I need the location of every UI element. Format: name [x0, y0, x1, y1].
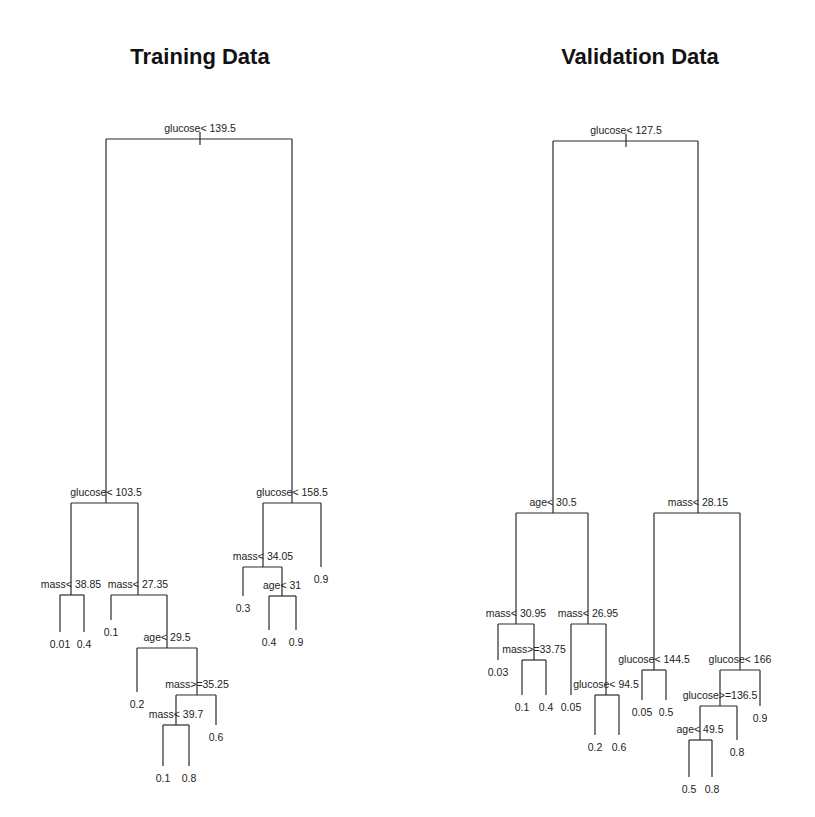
leaf-value: 0.01 — [50, 638, 71, 650]
leaf-value: 0.9 — [753, 712, 768, 724]
split-label: glucose< 166 — [709, 653, 772, 665]
leaf-value: 0.4 — [77, 638, 92, 650]
split-node-glucose-lt-127-5: glucose< 127.5 — [553, 124, 698, 513]
split-label: age< 31 — [263, 579, 301, 591]
split-label: glucose< 158.5 — [256, 486, 328, 498]
tree-figure: Training Data Validation Data glucose< 1… — [0, 0, 815, 817]
leaf-value: 0.5 — [682, 783, 697, 795]
split-label: mass>=33.75 — [502, 643, 566, 655]
split-node-mass-lt-28-15: mass< 28.15 — [654, 496, 740, 670]
split-node-age-lt-30-5: age< 30.5 — [516, 496, 588, 624]
split-label: mass< 26.95 — [558, 607, 619, 619]
split-label: mass>=35.25 — [165, 678, 229, 690]
split-label: mass< 38.85 — [41, 578, 102, 590]
leaf-value: 0.1 — [515, 701, 530, 713]
split-label: glucose< 94.5 — [573, 678, 639, 690]
leaf-value: 0.03 — [488, 666, 509, 678]
split-label: glucose< 103.5 — [70, 486, 142, 498]
split-label: glucose< 127.5 — [590, 124, 662, 136]
split-node-glucose-lt-144-5: glucose< 144.5 — [618, 653, 690, 700]
leaf-value: 0.1 — [104, 626, 119, 638]
leaf-value: 0.9 — [314, 573, 329, 585]
split-label: age< 30.5 — [529, 496, 576, 508]
split-label: mass< 34.05 — [233, 550, 294, 562]
training-tree: glucose< 139.5glucose< 103.5mass< 38.850… — [41, 122, 329, 784]
split-node-mass-lt-39-7: mass< 39.7 — [149, 708, 204, 766]
split-label: glucose< 139.5 — [164, 122, 236, 134]
leaf-value: 0.8 — [705, 783, 720, 795]
split-label: mass< 30.95 — [486, 607, 547, 619]
split-label: age< 29.5 — [143, 631, 190, 643]
leaf-value: 0.2 — [588, 741, 603, 753]
training-title: Training Data — [130, 44, 270, 69]
split-node-glucose-lt-94-5: glucose< 94.5 — [573, 678, 639, 735]
split-label: mass< 27.35 — [108, 578, 169, 590]
leaf-value: 0.9 — [289, 636, 304, 648]
leaf-value: 0.3 — [236, 602, 251, 614]
split-node-mass-ge-33-75: mass>=33.75 — [502, 643, 566, 695]
leaf-value: 0.05 — [561, 701, 582, 713]
split-node-mass-lt-38-85: mass< 38.85 — [41, 578, 102, 632]
split-node-age-lt-31: age< 31 — [263, 579, 301, 630]
split-label: mass< 28.15 — [668, 496, 729, 508]
split-label: mass< 39.7 — [149, 708, 204, 720]
split-label: glucose< 144.5 — [618, 653, 690, 665]
split-label: age< 49.5 — [676, 723, 723, 735]
split-node-age-lt-49-5: age< 49.5 — [676, 723, 723, 777]
leaf-value: 0.1 — [156, 772, 171, 784]
validation-tree: glucose< 127.5age< 30.5mass< 30.950.03ma… — [486, 124, 772, 795]
leaf-value: 0.5 — [659, 706, 674, 718]
leaf-value: 0.4 — [262, 636, 277, 648]
leaf-value: 0.8 — [730, 746, 745, 758]
validation-title: Validation Data — [561, 44, 719, 69]
leaf-value: 0.6 — [209, 731, 224, 743]
leaf-value: 0.05 — [632, 706, 653, 718]
split-node-glucose-lt-139-5: glucose< 139.5 — [106, 122, 292, 503]
split-label: glucose>=136.5 — [683, 689, 758, 701]
leaf-value: 0.8 — [182, 772, 197, 784]
leaf-value: 0.2 — [130, 698, 145, 710]
leaf-value: 0.6 — [612, 741, 627, 753]
leaf-value: 0.4 — [539, 701, 554, 713]
